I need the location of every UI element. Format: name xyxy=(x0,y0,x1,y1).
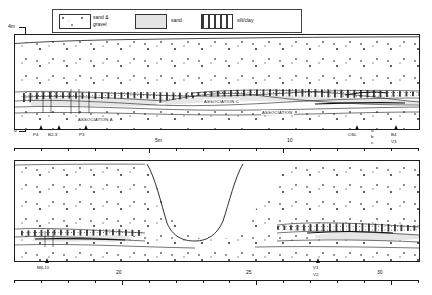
osl-sublabel-c: c xyxy=(371,141,373,145)
legend-label-silt-clay: silt/clay xyxy=(237,18,253,24)
scale-tick xyxy=(149,148,150,153)
scale-tick xyxy=(95,280,96,283)
scale-tick xyxy=(283,280,284,283)
scale-tick xyxy=(176,280,177,283)
scale-tick xyxy=(283,148,284,153)
lower-scale-label-20: 20 xyxy=(116,270,122,275)
scale-tick xyxy=(337,148,338,151)
marker-label-p3: P3 xyxy=(79,133,84,137)
scale-tick xyxy=(68,148,69,151)
upper-distance-scale xyxy=(14,148,418,160)
marker-label-v3: V3 xyxy=(391,140,396,144)
legend-swatch-sand xyxy=(135,14,167,29)
osl-sublabel-a: a xyxy=(371,129,373,133)
scale-tick xyxy=(229,280,230,283)
scale-tick xyxy=(95,148,96,151)
scale-tick xyxy=(229,148,230,151)
marker-arrow-b2-3 xyxy=(57,125,61,130)
scale-tick xyxy=(310,148,311,151)
marker-label-b4: B4 xyxy=(391,133,396,137)
vertical-axis-tick-bottom xyxy=(19,131,25,132)
scale-tick xyxy=(310,280,311,283)
scale-tick xyxy=(364,280,365,283)
lower-cross-section-panel xyxy=(14,160,420,262)
legend-swatch-silt-clay xyxy=(201,14,233,29)
association-label-b: ASSOCIATION xyxy=(261,110,294,115)
geological-cross-section-figure: sand & gravel sand silt/clay 4m 0 xyxy=(0,0,432,295)
marker-arrow-p4 xyxy=(39,125,43,130)
scale-tick xyxy=(41,280,42,283)
association-label-a: ASSOCIATION A xyxy=(77,117,114,122)
marker-arrow-v1-v2 xyxy=(316,258,320,263)
scale-tick xyxy=(149,280,150,283)
marker-arrow-b4 xyxy=(394,125,398,130)
scale-tick xyxy=(203,280,204,283)
scale-tick xyxy=(41,148,42,151)
marker-label-p4: P4 xyxy=(33,133,38,137)
legend: sand & gravel sand silt/clay xyxy=(52,9,302,33)
lower-scale-label-30: 30 xyxy=(377,270,383,275)
vertical-axis-tick-top xyxy=(19,27,25,28)
scale-tick xyxy=(256,148,257,151)
marker-label-osl: OSL xyxy=(348,133,357,137)
lower-scale-label-25: 25 xyxy=(246,270,252,275)
lower-distance-scale xyxy=(14,280,418,292)
vertical-axis-label-top: 4m xyxy=(8,24,15,29)
marker-arrow-p3 xyxy=(84,125,88,130)
scale-tick xyxy=(122,148,123,151)
marker-arrow-osl xyxy=(355,125,359,130)
scale-tick xyxy=(364,148,365,151)
scale-tick xyxy=(68,280,69,283)
legend-label-sand: sand xyxy=(171,18,182,24)
scale-tick xyxy=(418,148,419,151)
scale-tick xyxy=(122,280,123,285)
marker-label-m6-11: M6-11 xyxy=(37,266,49,270)
legend-swatch-sand-gravel xyxy=(59,14,91,29)
upper-cross-section-panel: ASSOCIATION C ASSOCIATION ASSOCIATION A xyxy=(14,34,420,130)
marker-label-v2: V2 xyxy=(313,273,318,277)
lower-internal-bedding-lines xyxy=(15,161,419,261)
scale-tick xyxy=(337,280,338,283)
marker-label-b2-3: B2-3 xyxy=(48,133,57,137)
scale-tick xyxy=(14,280,15,283)
scale-tick xyxy=(14,148,15,151)
scale-tick xyxy=(256,280,257,285)
marker-label-v1: V1 xyxy=(313,266,318,270)
association-label-c: ASSOCIATION C xyxy=(203,99,240,104)
scale-tick xyxy=(176,148,177,151)
upper-scale-label-10: 10 xyxy=(287,138,293,143)
internal-bedding-lines xyxy=(15,35,419,129)
scale-tick xyxy=(418,280,419,283)
osl-sublabel-b: b xyxy=(371,135,373,139)
scale-tick xyxy=(391,148,392,151)
legend-label-sand-gravel-line1: sand & xyxy=(93,15,109,21)
marker-arrow-m6-11 xyxy=(45,258,49,263)
scale-tick xyxy=(203,148,204,151)
scale-tick xyxy=(391,280,392,285)
upper-scale-label-5m: 5m xyxy=(155,138,162,143)
legend-label-sand-gravel-line2: gravel xyxy=(93,22,107,28)
